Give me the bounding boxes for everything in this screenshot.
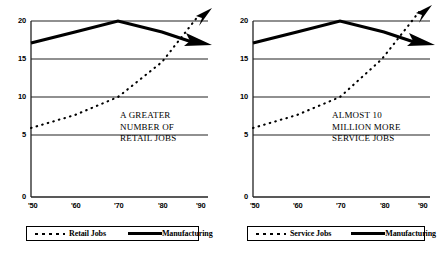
y-tick-0: 0 [10, 192, 26, 201]
right-legend: Service Jobs Manufacturing [247, 226, 425, 241]
left-legend-item-solid: Manufacturing [128, 229, 213, 238]
x-tick-60: '60 [293, 201, 303, 210]
left-legend: Retail Jobs Manufacturing [26, 226, 199, 241]
right-annotation-line-1: ALMOST 10 [332, 110, 401, 122]
left-annotation: A GREATER NUMBER OF RETAIL JOBS [120, 110, 176, 145]
y-tick-20: 20 [10, 16, 26, 25]
right-annotation-line-3: SERVICE JOBS [332, 133, 401, 145]
y-tick-10: 10 [232, 92, 248, 101]
left-chart-svg [0, 0, 222, 216]
y-tick-15: 15 [232, 54, 248, 63]
right-legend-label-solid: Manufacturing [385, 229, 436, 238]
x-tick-70: '70 [336, 201, 346, 210]
dual-chart-figure: 20 15 10 5 0 '50 '60 '70 '80 '90 A GREAT… [0, 0, 445, 253]
right-annotation: ALMOST 10 MILLION MORE SERVICE JOBS [332, 110, 401, 145]
y-tick-15: 15 [10, 54, 26, 63]
right-legend-item-solid: Manufacturing [351, 229, 436, 238]
x-tick-80: '80 [380, 201, 390, 210]
right-chart-panel: 20 15 10 5 0 '50 '60 '70 '80 '90 ALMOST … [222, 0, 445, 253]
y-tick-5: 5 [10, 130, 26, 139]
left-annotation-line-2: NUMBER OF [120, 122, 176, 134]
dashed-line-swatch-icon [35, 233, 65, 235]
x-tick-70: '70 [114, 201, 124, 210]
left-legend-item-dashed: Retail Jobs [35, 229, 106, 238]
left-annotation-line-1: A GREATER [120, 110, 176, 122]
right-legend-label-dashed: Service Jobs [290, 229, 331, 238]
x-tick-50: '50 [250, 201, 260, 210]
x-tick-60: '60 [71, 201, 81, 210]
x-tick-80: '80 [158, 201, 168, 210]
left-chart-panel: 20 15 10 5 0 '50 '60 '70 '80 '90 A GREAT… [0, 0, 222, 253]
arrowhead-dotted [416, 5, 432, 23]
y-tick-20: 20 [232, 16, 248, 25]
right-chart-svg [222, 0, 445, 216]
y-tick-0: 0 [232, 192, 248, 201]
solid-line-swatch-icon [128, 232, 162, 235]
arrowhead-dotted [196, 8, 212, 26]
solid-line-swatch-icon [351, 232, 385, 235]
right-legend-item-dashed: Service Jobs [256, 229, 331, 238]
y-tick-10: 10 [10, 92, 26, 101]
x-tick-90: '90 [418, 201, 428, 210]
left-plot-area: 20 15 10 5 0 '50 '60 '70 '80 '90 A GREAT… [0, 0, 222, 216]
series-solid-manufacturing [253, 21, 414, 43]
y-tick-5: 5 [232, 130, 248, 139]
dashed-line-swatch-icon [256, 233, 286, 235]
left-annotation-line-3: RETAIL JOBS [120, 133, 176, 145]
left-legend-label-dashed: Retail Jobs [69, 229, 106, 238]
left-legend-label-solid: Manufacturing [162, 229, 213, 238]
right-plot-area: 20 15 10 5 0 '50 '60 '70 '80 '90 ALMOST … [222, 0, 445, 216]
x-tick-90: '90 [196, 201, 206, 210]
x-tick-50: '50 [28, 201, 38, 210]
series-solid-manufacturing [31, 21, 192, 43]
right-annotation-line-2: MILLION MORE [332, 122, 401, 134]
